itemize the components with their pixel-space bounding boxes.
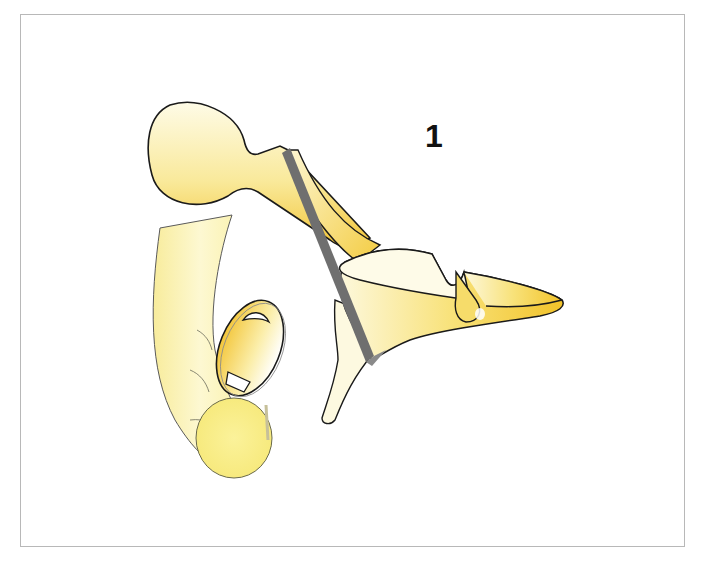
- ossicles-illustration: [0, 0, 708, 579]
- figure-number-label: 1: [425, 120, 443, 152]
- malleus-end-cap: [196, 398, 272, 478]
- incus-body: [340, 249, 564, 360]
